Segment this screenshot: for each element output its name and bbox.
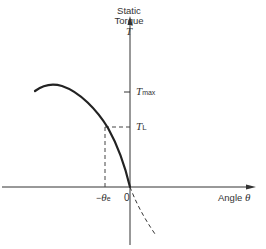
- t-l-subscript: L: [142, 123, 146, 132]
- torque-curve-extension: [130, 187, 155, 234]
- y-axis-label: Static Torque T: [107, 6, 151, 36]
- origin-label: 0: [124, 193, 130, 203]
- y-axis-symbol: T: [107, 26, 151, 36]
- x-axis-arrow: [246, 185, 256, 190]
- t-max-label: Tmax: [136, 86, 155, 98]
- theta-e-subscript: e: [107, 195, 111, 202]
- x-axis-label: Angle θ: [218, 192, 250, 203]
- x-axis-symbol: θ: [245, 191, 250, 203]
- torque-curve: [35, 85, 130, 187]
- t-max-subscript: max: [142, 89, 155, 96]
- x-axis-label-text: Angle: [218, 192, 242, 203]
- t-l-label: TL: [136, 121, 147, 133]
- theta-e-label: −θe: [96, 192, 111, 204]
- torque-angle-diagram: [0, 0, 266, 249]
